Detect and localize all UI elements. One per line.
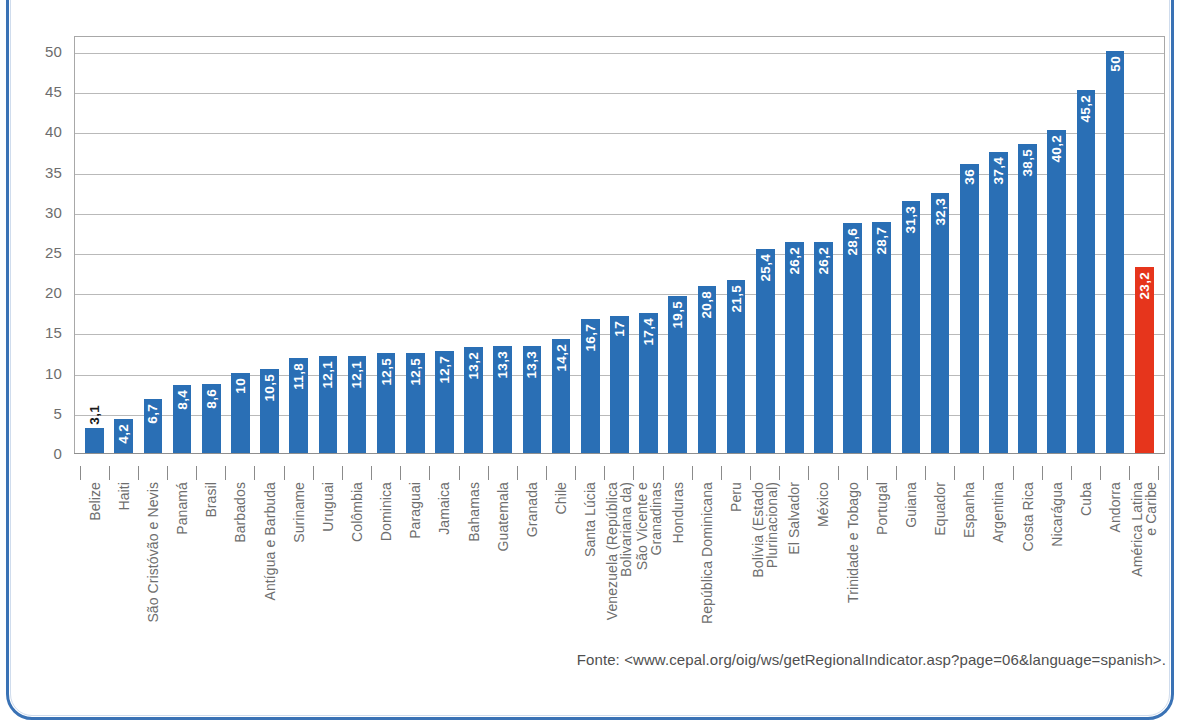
bar-value-label: 26,2 <box>816 247 831 274</box>
x-axis-tick <box>1071 466 1100 480</box>
bar-slot: 40,2 <box>1042 37 1071 453</box>
x-axis-tick <box>401 466 430 480</box>
bar[interactable]: 38,5 <box>1018 144 1037 453</box>
bar[interactable]: 25,4 <box>756 249 775 453</box>
bar[interactable]: 31,3 <box>902 201 921 453</box>
bar[interactable]: 8,4 <box>173 385 192 453</box>
bar-value-label: 8,6 <box>204 389 219 409</box>
bar[interactable]: 32,3 <box>931 193 950 453</box>
x-axis-tick <box>430 466 459 480</box>
bar-slot: 12,7 <box>430 37 459 453</box>
category-label: Portugal <box>875 482 889 535</box>
category-label: Santa Lúcia <box>583 482 597 557</box>
bar-slot: 23,2 <box>1130 37 1159 453</box>
bar-value-label: 32,3 <box>933 198 948 225</box>
bar-slot: 20,8 <box>692 37 721 453</box>
category-slot: Barbados <box>226 482 255 652</box>
bar-value-label: 31,3 <box>903 206 918 233</box>
category-label: Argentina <box>991 482 1005 543</box>
category-slot: Portugal <box>867 482 896 652</box>
bar-slot: 38,5 <box>1013 37 1042 453</box>
category-slot: Andorra <box>1100 482 1129 652</box>
bar[interactable]: 28,6 <box>843 223 862 453</box>
bar[interactable]: 45,2 <box>1077 90 1096 453</box>
category-label: Cuba <box>1079 482 1093 516</box>
x-axis-tick <box>576 466 605 480</box>
bar-value-label: 17 <box>612 321 627 337</box>
bar[interactable]: 14,2 <box>552 339 571 453</box>
category-slot: Nicarágua <box>1042 482 1071 652</box>
x-axis-tick <box>721 466 750 480</box>
category-label: Venezuela (República Bolivariana da) <box>605 482 633 620</box>
bar[interactable]: 23,2 <box>1135 267 1154 453</box>
x-axis-category-labels: BelizeHaitiSão Cristóvão e NevisPanamáBr… <box>75 482 1164 652</box>
bar[interactable]: 37,4 <box>989 152 1008 453</box>
bar[interactable]: 17 <box>610 316 629 453</box>
bar[interactable]: 6,7 <box>144 399 163 453</box>
bar[interactable]: 26,2 <box>785 242 804 453</box>
bar-slot: 37,4 <box>984 37 1013 453</box>
category-label: Chile <box>554 482 568 514</box>
category-label: Espanha <box>962 482 976 538</box>
bar[interactable]: 28,7 <box>872 222 891 453</box>
x-axis-tick <box>488 466 517 480</box>
category-label: Granada <box>525 482 539 537</box>
x-axis-tick <box>692 466 721 480</box>
bar-value-label: 23,2 <box>1137 272 1152 299</box>
category-label: Bolívia (Estado Plurinacional) <box>751 482 779 578</box>
bar-slot: 25,4 <box>751 37 780 453</box>
bar[interactable]: 20,8 <box>698 286 717 453</box>
category-label: Haiti <box>117 482 131 511</box>
x-axis-tick <box>226 466 255 480</box>
bar[interactable]: 36 <box>960 164 979 453</box>
bar[interactable]: 16,7 <box>581 319 600 453</box>
y-axis-tick-label: 45 <box>22 83 62 100</box>
bar-series: 3,14,26,78,48,61010,511,812,112,112,512,… <box>75 37 1164 453</box>
category-slot: Jamaica <box>430 482 459 652</box>
category-slot: Granada <box>517 482 546 652</box>
x-axis-tick <box>1042 466 1071 480</box>
bar[interactable]: 10 <box>231 373 250 453</box>
bar[interactable]: 40,2 <box>1047 130 1066 453</box>
bar-value-label: 25,4 <box>758 254 773 281</box>
bar[interactable]: 4,2 <box>114 419 133 453</box>
bar[interactable]: 12,5 <box>406 353 425 453</box>
bar[interactable]: 3,1 <box>85 428 104 453</box>
category-label: Suriname <box>292 482 306 543</box>
bar[interactable]: 17,4 <box>639 313 658 453</box>
category-slot: Guatemala <box>488 482 517 652</box>
bar-slot: 12,1 <box>313 37 342 453</box>
category-slot: Antígua e Barbuda <box>255 482 284 652</box>
bar[interactable]: 26,2 <box>814 242 833 453</box>
bar[interactable]: 12,5 <box>377 353 396 453</box>
bar[interactable]: 12,7 <box>435 351 454 453</box>
bar[interactable]: 50 <box>1106 51 1125 453</box>
bar-value-label: 13,2 <box>466 352 481 379</box>
bar[interactable]: 13,2 <box>464 347 483 453</box>
bar-slot: 28,6 <box>838 37 867 453</box>
bar[interactable]: 21,5 <box>727 280 746 453</box>
bar[interactable]: 13,3 <box>523 346 542 453</box>
bar-slot: 12,5 <box>372 37 401 453</box>
bar[interactable]: 11,8 <box>289 358 308 453</box>
category-slot: Haiti <box>109 482 138 652</box>
x-axis-tick <box>634 466 663 480</box>
bar[interactable]: 10,5 <box>260 369 279 453</box>
bar-slot: 32,3 <box>926 37 955 453</box>
bar-slot: 50 <box>1100 37 1129 453</box>
bar-value-label: 6,7 <box>145 404 160 424</box>
bar[interactable]: 19,5 <box>668 296 687 453</box>
bar[interactable]: 12,1 <box>319 356 338 453</box>
x-axis-tick <box>867 466 896 480</box>
category-slot: São Vicente e Granadinas <box>634 482 663 652</box>
category-slot: Suriname <box>284 482 313 652</box>
bar[interactable]: 13,3 <box>493 346 512 453</box>
bar-slot: 13,3 <box>517 37 546 453</box>
bar[interactable]: 12,1 <box>348 356 367 453</box>
x-axis-tick <box>984 466 1013 480</box>
category-label: Bahamas <box>467 482 481 542</box>
bar[interactable]: 8,6 <box>202 384 221 453</box>
bar-value-label: 16,7 <box>583 324 598 351</box>
category-label: Belize <box>88 482 102 521</box>
